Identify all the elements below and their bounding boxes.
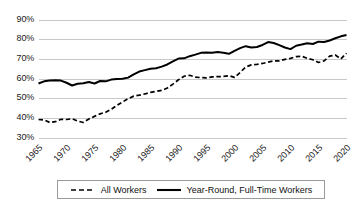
legend-item-year-round-full-time-workers: Year-Round, Full-Time Workers: [156, 185, 313, 195]
legend-label-year-round-full-time-workers: Year-Round, Full-Time Workers: [187, 185, 313, 195]
legend-dashed-line-icon: [70, 186, 96, 194]
legend-item-all-workers: All Workers: [70, 185, 147, 195]
legend-label-all-workers: All Workers: [101, 185, 147, 195]
earnings-ratio-line-chart: 90%80%70%60%50%40%30% 196519701975198019…: [0, 0, 357, 211]
legend-solid-line-icon: [156, 186, 182, 194]
chart-legend: All Workers Year-Round, Full-Time Worker…: [57, 180, 325, 199]
